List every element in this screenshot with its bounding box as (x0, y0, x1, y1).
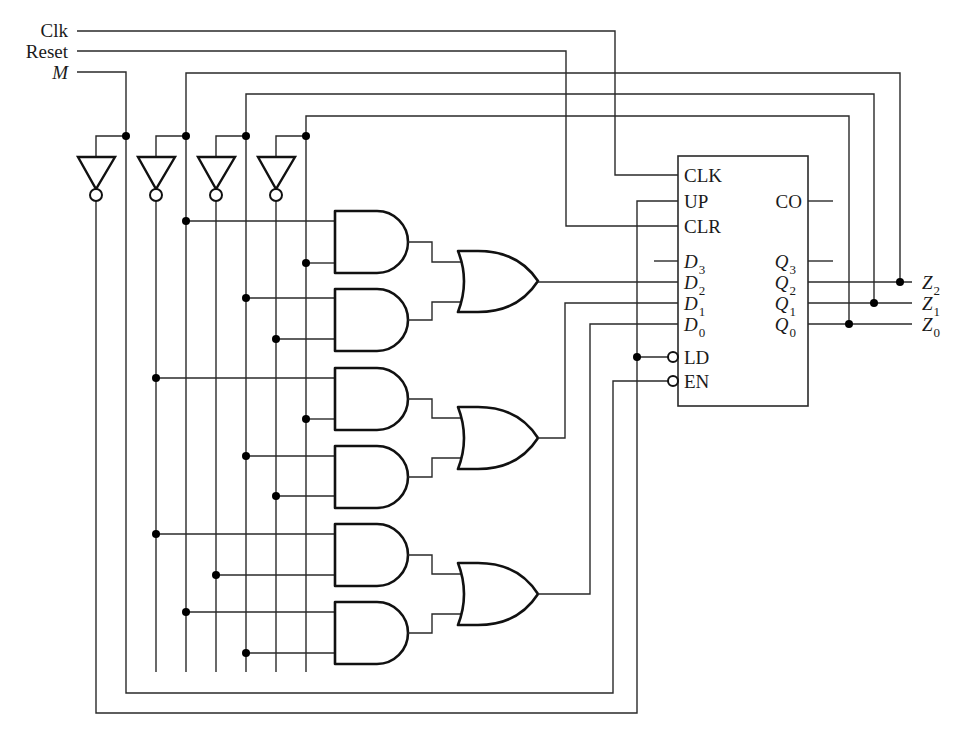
and6-to-or3 (408, 614, 462, 633)
and-gate-6 (335, 602, 408, 664)
pin-en: EN (684, 371, 710, 392)
input-label-m: M (51, 62, 69, 83)
inverter-2 (138, 157, 175, 201)
and-gate-4 (335, 446, 408, 508)
and-gate-3 (335, 368, 408, 430)
circuit-diagram: Clk Reset M (0, 0, 969, 740)
wire-clk (77, 31, 678, 175)
wire-inv3-tap (216, 136, 246, 157)
or-gate-2 (458, 407, 538, 469)
inverter-4 (258, 157, 295, 201)
and-gate-5 (335, 524, 408, 586)
and3-to-or2 (408, 399, 462, 418)
pin-ld: LD (684, 347, 709, 368)
and2-to-or1 (408, 302, 462, 320)
pin-co: CO (776, 191, 802, 212)
and1-to-or1 (408, 242, 462, 262)
inverter-1 (78, 157, 115, 201)
en-inversion-bubble (668, 376, 678, 386)
pin-clr: CLR (684, 216, 721, 237)
pin-up: UP (684, 191, 708, 212)
inverter-3 (198, 157, 235, 201)
and-gate-2 (335, 289, 408, 351)
wire-inv2-tap (156, 136, 186, 157)
input-label-reset: Reset (26, 41, 69, 62)
ld-inversion-bubble (668, 352, 678, 362)
wire-inv1-tap (96, 136, 126, 157)
input-label-clk: Clk (41, 20, 69, 41)
pin-clk: CLK (684, 165, 722, 186)
and4-to-or2 (408, 458, 462, 477)
and5-to-or3 (408, 555, 462, 574)
wire-reset (77, 51, 678, 226)
wire-or3-d0 (538, 324, 678, 594)
or-gate-3 (458, 563, 538, 625)
and-gate-1 (335, 211, 408, 273)
or-gate-1 (458, 251, 538, 312)
wire-inv4-tap (276, 136, 306, 157)
wire-or2-d1 (538, 303, 678, 438)
